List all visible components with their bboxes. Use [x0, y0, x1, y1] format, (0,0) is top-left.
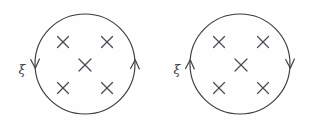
canvas-background: [0, 0, 319, 129]
right-loop-xi-label: ξ: [174, 62, 182, 77]
figure-root: ξ: [0, 0, 319, 129]
circulation-diagram: ξ: [0, 0, 319, 129]
left-loop-xi-label: ξ: [19, 62, 27, 77]
